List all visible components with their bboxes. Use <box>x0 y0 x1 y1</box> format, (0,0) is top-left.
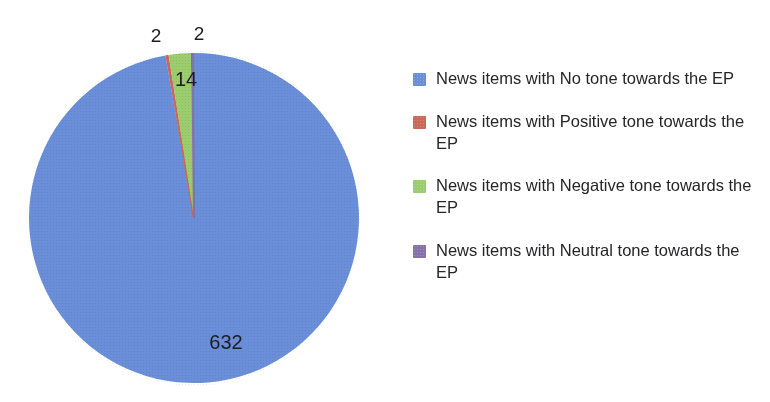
legend-item[interactable]: News items with Negative tone towards th… <box>413 175 765 219</box>
legend-item-label: News items with No tone towards the EP <box>436 68 734 90</box>
pie-label-negative-tone: 14 <box>175 69 197 89</box>
pie-label-positive-tone: 2 <box>151 26 162 45</box>
legend-item-label: News items with Neutral tone towards the… <box>436 240 756 284</box>
legend-item-label: News items with Negative tone towards th… <box>436 175 756 219</box>
legend-swatch-negative-tone <box>413 180 426 193</box>
pie-slice-group <box>29 53 359 383</box>
legend-item[interactable]: News items with No tone towards the EP <box>413 68 765 90</box>
pie-chart-figure: 2 2 14 632 <box>0 0 400 402</box>
legend-swatch-neutral-tone <box>413 245 426 258</box>
pie-svg <box>28 50 360 386</box>
legend-item-label: News items with Positive tone towards th… <box>436 111 756 155</box>
legend-item[interactable]: News items with Neutral tone towards the… <box>413 240 765 284</box>
legend-swatch-no-tone <box>413 73 426 86</box>
legend-item[interactable]: News items with Positive tone towards th… <box>413 111 765 155</box>
pie-label-neutral-tone: 2 <box>194 24 205 43</box>
chart-legend: News items with No tone towards the EPNe… <box>413 68 765 283</box>
legend-swatch-positive-tone <box>413 116 426 129</box>
pie-chart-graphic <box>28 50 360 386</box>
pie-label-no-tone: 632 <box>209 332 242 352</box>
